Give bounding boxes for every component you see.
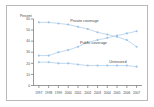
x-tick-label: 2005 [114, 91, 121, 95]
data-point-marker [136, 66, 138, 68]
x-tick-label: 2001 [74, 91, 81, 95]
data-point-marker [87, 65, 89, 67]
x-tick-label: 2003 [94, 91, 101, 95]
data-point-marker [38, 55, 40, 57]
series-label: Uninsured [109, 60, 126, 64]
data-point-marker [38, 61, 40, 63]
data-point-marker [67, 23, 69, 25]
series-label: Private coverage [70, 19, 99, 23]
data-point-marker [126, 39, 128, 41]
data-point-marker [96, 31, 98, 33]
data-point-marker [126, 65, 128, 67]
data-point-marker [136, 30, 138, 32]
x-axis-ticks [39, 86, 137, 89]
data-point-marker [77, 63, 79, 65]
series-label-layer: Private coveragePublic coverageUninsured [70, 19, 126, 64]
data-point-marker [106, 37, 108, 39]
chart-plot-container: Percent 0102030405060 Private coveragePu… [0, 0, 154, 107]
data-point-marker [106, 65, 108, 67]
data-point-marker [116, 65, 118, 67]
data-point-marker [67, 62, 69, 64]
chart-figure: Percent 0102030405060 Private coveragePu… [0, 0, 154, 107]
data-point-marker [126, 32, 128, 34]
x-tick-label: 1997 [35, 91, 42, 95]
data-point-marker [48, 21, 50, 23]
x-tick-label: 2002 [84, 91, 91, 95]
x-tick-label: 2007 [133, 91, 140, 95]
data-point-marker [96, 65, 98, 67]
y-tick-label: 20 [26, 62, 30, 66]
data-point-marker [106, 33, 108, 35]
data-point-marker [57, 62, 59, 64]
x-tick-label: 2000 [65, 91, 72, 95]
x-tick-label: 2006 [123, 91, 130, 95]
data-point-marker [116, 35, 118, 37]
y-tick-label: 40 [26, 39, 30, 43]
y-tick-label: 50 [26, 28, 30, 32]
data-point-marker [48, 61, 50, 63]
y-axis-ticks: 0102030405060 [26, 17, 33, 88]
data-point-marker [77, 46, 79, 48]
x-tick-label: 1999 [55, 91, 62, 95]
data-point-marker [38, 21, 40, 23]
data-point-marker [136, 46, 138, 48]
y-tick-label: 10 [26, 73, 30, 77]
data-point-marker [57, 22, 59, 24]
y-tick-label: 0 [28, 84, 30, 88]
x-axis-tick-labels: 1997199819992000200120022003200420052006… [35, 91, 140, 95]
data-point-marker [87, 28, 89, 30]
y-tick-label: 30 [26, 50, 30, 54]
data-point-marker [67, 49, 69, 51]
data-point-marker [77, 26, 79, 28]
y-tick-label: 60 [26, 17, 30, 21]
series-label: Public coverage [80, 41, 107, 45]
x-tick-label: 2004 [104, 91, 111, 95]
line-chart-svg: Percent 0102030405060 Private coveragePu… [0, 0, 154, 107]
data-point-marker [48, 55, 50, 57]
x-tick-label: 1998 [45, 91, 52, 95]
data-point-marker [57, 51, 59, 53]
